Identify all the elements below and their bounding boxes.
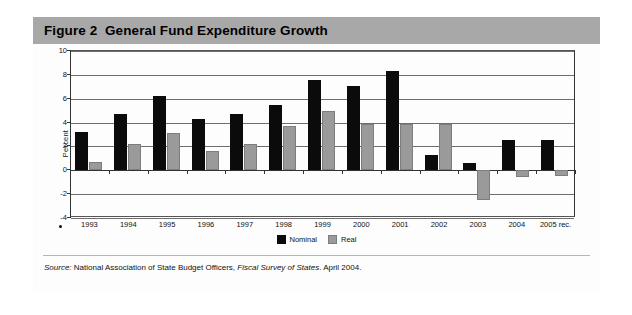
- source-publication: Fiscal Survey of States: [237, 263, 319, 272]
- y-tick-label-6: 6: [37, 93, 67, 102]
- x-tick-label-1996: 1996: [198, 220, 215, 229]
- bar-nominal-1998: [269, 105, 282, 171]
- y-tick-label-8: 8: [37, 69, 67, 78]
- x-tick-label-1995: 1995: [159, 220, 176, 229]
- bar-nominal-2000: [347, 86, 360, 171]
- legend-item-real: Real: [328, 235, 356, 244]
- legend-swatch-real: [328, 235, 337, 244]
- bar-real-1997: [244, 144, 257, 170]
- x-tick-label-1998: 1998: [275, 220, 292, 229]
- figure-title: Figure 2 General Fund Expenditure Growth: [33, 23, 328, 38]
- legend-item-nominal: Nominal: [277, 235, 318, 244]
- bar-group: [188, 51, 227, 216]
- legend-swatch-nominal: [277, 235, 286, 244]
- x-tick-label-2004: 2004: [508, 220, 525, 229]
- bar-real-1993: [89, 162, 102, 170]
- bars-layer: [71, 51, 574, 216]
- chart-container: Percent 1086420-2-4 19931994199519961997…: [33, 44, 600, 291]
- y-tick-label--2: -2: [37, 189, 67, 198]
- y-axis-ticks: 1086420-2-4: [33, 50, 67, 217]
- y-tick-label-4: 4: [37, 117, 67, 126]
- y-tick-label-0: 0: [37, 165, 67, 174]
- bar-real-2003: [477, 170, 490, 200]
- x-tick-label-2003: 2003: [470, 220, 487, 229]
- bar-real-1998: [283, 126, 296, 170]
- figure-card: Figure 2 General Fund Expenditure Growth…: [33, 17, 600, 291]
- bar-group: [226, 51, 265, 216]
- x-axis-labels: 1993199419951996199719981999200020012002…: [70, 220, 575, 234]
- source-organization: National Association of State Budget Off…: [74, 263, 235, 272]
- bar-group: [71, 51, 110, 216]
- x-tick-label-1999: 1999: [314, 220, 331, 229]
- gridline--4: [71, 218, 574, 219]
- chart-legend: NominalReal: [33, 235, 600, 244]
- bar-nominal-2004: [502, 140, 515, 170]
- legend-label-nominal: Nominal: [290, 235, 318, 244]
- bar-group: [459, 51, 498, 216]
- y-tick-label-2: 2: [37, 141, 67, 150]
- bar-group: [382, 51, 421, 216]
- y-tick-label-10: 10: [37, 46, 67, 55]
- bar-group: [343, 51, 382, 216]
- bar-nominal-1996: [192, 119, 205, 170]
- bar-real-1994: [128, 144, 141, 170]
- source-label: Source:: [44, 263, 72, 272]
- bar-real-2004: [516, 170, 529, 177]
- legend-label-real: Real: [341, 235, 356, 244]
- x-tick-label-1993: 1993: [81, 220, 98, 229]
- bar-real-2005rec: [555, 170, 568, 176]
- x-tick-label-2005rec: 2005 rec.: [540, 220, 571, 229]
- bar-nominal-2001: [386, 71, 399, 170]
- bar-group: [149, 51, 188, 216]
- bar-real-1996: [206, 151, 219, 170]
- bar-group: [537, 51, 576, 216]
- x-tick-label-1994: 1994: [120, 220, 137, 229]
- bar-group: [110, 51, 149, 216]
- bar-real-2000: [361, 124, 374, 171]
- source-note: Source: National Association of State Bu…: [44, 263, 361, 272]
- bar-group: [265, 51, 304, 216]
- bar-real-1995: [167, 133, 180, 170]
- bar-real-1999: [322, 111, 335, 171]
- bar-nominal-2003: [463, 163, 476, 170]
- x-tick-label-2002: 2002: [431, 220, 448, 229]
- bar-real-2002: [439, 124, 452, 171]
- origin-marker-dot: [59, 225, 62, 228]
- bar-nominal-1997: [230, 114, 243, 170]
- bar-group: [498, 51, 537, 216]
- bar-nominal-1999: [308, 80, 321, 171]
- bar-group: [304, 51, 343, 216]
- figure-title-bar: Figure 2 General Fund Expenditure Growth: [33, 17, 600, 44]
- bar-nominal-2002: [425, 155, 438, 171]
- bar-real-2001: [400, 124, 413, 171]
- bar-nominal-1993: [75, 132, 88, 170]
- plot-area: [70, 50, 575, 217]
- x-tick-label-2001: 2001: [392, 220, 409, 229]
- footer-divider: [43, 255, 590, 256]
- bar-group: [421, 51, 460, 216]
- y-tick-label--4: -4: [37, 213, 67, 222]
- source-date: . April 2004.: [319, 263, 361, 272]
- x-tick-label-1997: 1997: [236, 220, 253, 229]
- x-tick-label-2000: 2000: [353, 220, 370, 229]
- bar-nominal-1995: [153, 96, 166, 170]
- bar-nominal-2005rec: [541, 140, 554, 170]
- bar-nominal-1994: [114, 114, 127, 170]
- x-tick-mark: [575, 170, 576, 174]
